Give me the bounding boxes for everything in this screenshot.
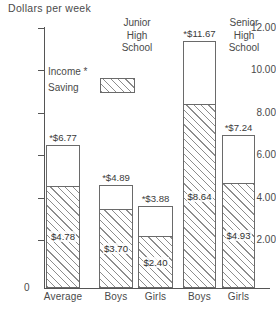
bar-1-average [46, 145, 80, 288]
x-axis-category-label: Girls [214, 291, 263, 302]
group-note-junior-line3: School [106, 42, 168, 55]
y-tick-mark-4 [38, 198, 44, 199]
group-note-senior-line2: High [213, 30, 275, 43]
group-note-junior-high-school: Junior High School [106, 17, 168, 55]
bar-saving-value-label: $2.40 [142, 257, 168, 268]
y-tick-mark-6 [38, 155, 44, 156]
group-note-senior-line1: Senior [213, 17, 275, 30]
x-axis-category-label: Girls [130, 291, 181, 302]
legend-item-saving: Saving [48, 79, 87, 95]
legend-label-saving: Saving [48, 82, 79, 93]
legend: Income * Saving [48, 63, 87, 95]
bar-income-value-label: *$3.88 [142, 193, 170, 204]
bar-income-value-label: *$11.67 [183, 28, 215, 39]
legend-swatch-saving-hatch [100, 78, 135, 93]
y-tick-label-10: 10.00 [238, 64, 276, 75]
bar-income-value-label: *$7.24 [225, 122, 253, 133]
group-note-junior-line1: Junior [106, 17, 168, 30]
bar-saving-value-label: $3.70 [103, 243, 129, 254]
legend-label-income: Income * [48, 66, 87, 77]
y-tick-mark-2 [38, 240, 44, 241]
group-note-senior-high-school: Senior High School [213, 17, 275, 55]
bar-saving-value-label: $4.93 [225, 230, 251, 241]
group-note-junior-line2: High [106, 30, 168, 43]
axis-title: Dollars per week [8, 2, 91, 14]
y-tick-mark-8 [38, 113, 44, 114]
y-tick-label-0: 0 [24, 282, 30, 293]
bar-income-value-label: *$6.77 [49, 132, 77, 143]
x-axis-category-label: Average [38, 291, 88, 302]
bar-saving-value-label: $4.78 [50, 231, 76, 242]
bar-2-boys [99, 185, 133, 288]
x-axis-line [44, 288, 270, 289]
bar-chart: Dollars per week 12.00 10.00 8.00 6.00 4… [0, 0, 276, 311]
bar-4-boys [183, 41, 216, 288]
group-note-senior-line3: School [213, 42, 275, 55]
y-tick-mark-10 [38, 70, 44, 71]
bar-3-girls [138, 206, 173, 288]
bar-saving-value-label: $8.64 [186, 191, 212, 202]
bar-5-girls [222, 135, 255, 288]
y-tick-label-8: 8.00 [238, 107, 276, 118]
legend-item-income: Income * [48, 63, 87, 79]
bar-income-value-label: *$4.89 [102, 172, 130, 183]
y-tick-mark-12 [38, 28, 44, 29]
